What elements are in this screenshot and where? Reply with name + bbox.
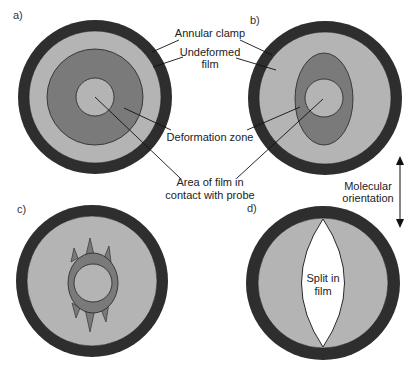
- panel-b-label: b): [250, 14, 260, 26]
- split-label-line2: film: [314, 285, 331, 297]
- split-label-line1: Split in: [306, 272, 339, 284]
- deformation-zone-label: Deformation zone: [167, 131, 254, 143]
- panel-a: a): [13, 9, 172, 174]
- molecular-orientation-label-line1: Molecular: [344, 180, 392, 192]
- panel-c: c): [16, 203, 168, 357]
- contact-area-label-line1: Area of film in: [176, 176, 243, 188]
- panel-a-label: a): [13, 9, 23, 21]
- molecular-orientation-label-line2: orientation: [342, 192, 393, 204]
- annular-clamp-label: Annular clamp: [175, 27, 245, 39]
- molecular-orientation-arrow: [396, 156, 404, 228]
- undeformed-film-label-line2: film: [201, 58, 218, 70]
- contact-area: [74, 264, 112, 302]
- contact-area: [305, 79, 343, 117]
- contact-area-label-line2: contact with probe: [165, 189, 254, 201]
- panel-d: d) Split in film: [246, 202, 400, 360]
- film-deformation-diagram: a) b) c) d) Split in: [0, 0, 418, 365]
- panel-c-label: c): [17, 203, 26, 215]
- panel-d-label: d): [247, 202, 257, 214]
- panel-b: b): [248, 14, 402, 175]
- undeformed-film-label-line1: Undeformed: [180, 46, 241, 58]
